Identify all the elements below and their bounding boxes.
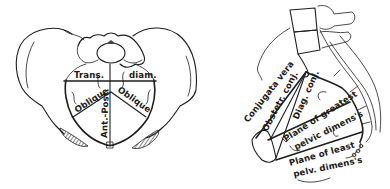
vertebral-body	[97, 43, 125, 63]
lumbar-vertebra-1	[290, 8, 317, 32]
spinal-canal	[106, 40, 116, 44]
sacrum-anterior	[298, 54, 309, 77]
pelvis-diagram: Trans. diam. Oblique Oblique Ant.-Post.	[0, 0, 390, 189]
sacrum-top	[78, 33, 145, 67]
lumbar-vertebra-2	[294, 30, 320, 54]
right-ilium-outline	[133, 28, 196, 138]
pelvic-inlet-view: Trans. diam. Oblique Oblique Ant.-Post.	[16, 28, 196, 149]
sagittal-section-view: Conjugata vera Obstetr. conj. Diag. conj…	[242, 5, 381, 182]
label-ant-post: Ant.-Post.	[99, 88, 111, 138]
label-diam: diam.	[129, 70, 157, 80]
label-trans: Trans.	[74, 70, 104, 80]
